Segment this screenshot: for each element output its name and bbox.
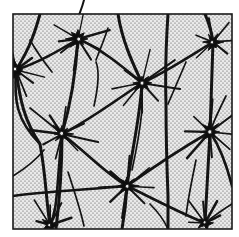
junction-core <box>208 130 212 134</box>
junction-core <box>140 81 144 85</box>
junction-core <box>60 131 64 135</box>
micrograph-figure <box>0 0 239 237</box>
junction-core <box>77 37 81 41</box>
crack-network-svg <box>0 0 239 237</box>
junction-core <box>210 41 214 45</box>
junction-core <box>125 184 129 188</box>
junction-core <box>203 221 206 224</box>
junction-core <box>48 223 51 226</box>
